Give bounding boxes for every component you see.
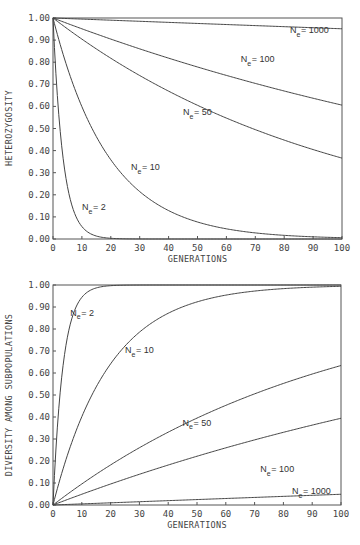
curve-label: Ne = 1000	[290, 25, 329, 38]
y-axis-title: HETEROZYGOSITY	[4, 90, 14, 166]
svg-text:e: e	[299, 492, 303, 499]
x-tick-label: 70	[250, 243, 261, 253]
y-tick-label: 0.00	[28, 234, 50, 244]
svg-text:= 50: = 50	[194, 418, 212, 428]
y-tick-label: 0.10	[28, 212, 50, 222]
curve-label: Ne = 2	[70, 308, 94, 321]
x-tick-label: 30	[134, 243, 145, 253]
x-tick-label: 100	[333, 509, 349, 519]
y-tick-label: 0.40	[28, 412, 50, 422]
x-tick-label: 60	[220, 509, 231, 519]
curve-label: Ne = 50	[183, 418, 212, 431]
y-tick-label: 0.40	[28, 146, 50, 156]
x-tick-label: 20	[105, 509, 116, 519]
svg-text:e: e	[132, 351, 136, 358]
svg-text:= 100: = 100	[271, 464, 294, 474]
svg-text:e: e	[267, 470, 271, 477]
curve-label: Ne = 100	[241, 54, 275, 66]
x-tick-label: 80	[278, 509, 289, 519]
y-tick-label: 0.20	[28, 456, 50, 466]
y-tick-label: 1.00	[28, 280, 50, 290]
y-tick-label: 0.90	[28, 302, 50, 312]
curve-label: Ne = 10	[125, 345, 154, 358]
x-tick-label: 90	[308, 243, 319, 253]
figure: 0.000.100.200.300.400.500.600.700.800.90…	[0, 0, 360, 545]
y-tick-label: 0.00	[28, 500, 50, 510]
svg-text:= 10: = 10	[142, 162, 160, 172]
svg-text:e: e	[190, 113, 194, 120]
svg-text:= 50: = 50	[194, 107, 212, 117]
y-tick-label: 0.30	[28, 434, 50, 444]
y-tick-label: 0.90	[28, 35, 50, 45]
y-tick-label: 0.70	[28, 346, 50, 356]
y-tick-label: 0.70	[28, 79, 50, 89]
curve-label: Ne = 2	[82, 202, 106, 215]
svg-text:= 2: = 2	[93, 202, 106, 212]
svg-text:= 1000: = 1000	[301, 25, 329, 35]
x-axis-title: GENERATIONS	[167, 520, 227, 530]
y-tick-label: 0.60	[28, 101, 50, 111]
diversity-chart: 0.000.100.200.300.400.500.600.700.800.90…	[4, 280, 349, 530]
curve-label: Ne = 100	[260, 464, 294, 477]
x-tick-label: 40	[163, 243, 174, 253]
curve-label: Ne = 1000	[292, 486, 331, 499]
curve-ne-2	[53, 285, 341, 505]
y-tick-label: 0.80	[28, 324, 50, 334]
y-tick-label: 0.30	[28, 168, 50, 178]
x-tick-label: 60	[221, 243, 232, 253]
svg-text:= 10: = 10	[136, 345, 154, 355]
y-tick-label: 0.10	[28, 478, 50, 488]
curve-ne-1000	[53, 18, 342, 29]
y-axis-title: DIVERSITY AMONG SUBPOPULATIONS	[4, 314, 14, 477]
y-tick-label: 1.00	[28, 13, 50, 23]
y-tick-label: 0.20	[28, 190, 50, 200]
x-tick-label: 10	[76, 509, 87, 519]
x-axis-title: GENERATIONS	[168, 254, 228, 264]
plot-frame	[53, 285, 341, 505]
curve-label: Ne = 50	[183, 107, 212, 120]
y-tick-label: 0.50	[28, 390, 50, 400]
x-tick-label: 70	[249, 509, 260, 519]
x-tick-label: 50	[192, 243, 203, 253]
y-tick-label: 0.60	[28, 368, 50, 378]
x-tick-label: 90	[307, 509, 318, 519]
svg-text:e: e	[77, 313, 81, 320]
svg-text:= 1000: = 1000	[303, 486, 331, 496]
svg-text:e: e	[189, 423, 193, 430]
svg-text:= 2: = 2	[81, 308, 94, 318]
svg-text:e: e	[296, 31, 300, 38]
x-tick-label: 80	[279, 243, 290, 253]
svg-text:e: e	[138, 168, 142, 175]
curve-ne-10	[53, 286, 341, 505]
x-tick-label: 50	[192, 509, 203, 519]
x-tick-label: 10	[76, 243, 87, 253]
y-tick-label: 0.50	[28, 124, 50, 134]
x-tick-label: 0	[50, 509, 55, 519]
y-tick-label: 0.80	[28, 57, 50, 67]
heterozygosity-chart: 0.000.100.200.300.400.500.600.700.800.90…	[4, 13, 350, 264]
x-tick-label: 40	[163, 509, 174, 519]
x-tick-label: 30	[134, 509, 145, 519]
x-tick-label: 100	[334, 243, 350, 253]
svg-text:e: e	[88, 208, 92, 215]
x-tick-label: 20	[105, 243, 116, 253]
x-tick-label: 0	[50, 243, 55, 253]
svg-text:= 100: = 100	[252, 54, 275, 64]
svg-text:e: e	[247, 60, 251, 67]
curve-label: Ne = 10	[131, 162, 160, 175]
